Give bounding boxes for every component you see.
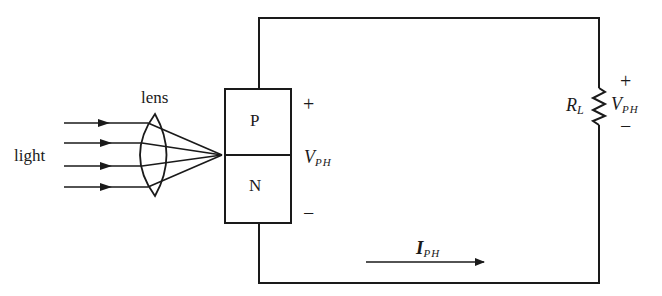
ray-arrowheads [98, 119, 112, 191]
resistor-label: RL [566, 96, 585, 116]
resistor-plus-sign: + [620, 71, 631, 91]
current-label: IPH [416, 238, 440, 259]
resistor-voltage-label: VPH [611, 95, 639, 115]
lens-shape [140, 114, 167, 196]
p-region-label: P [250, 112, 259, 129]
light-rays [64, 123, 222, 187]
top-wire [259, 18, 599, 89]
resistor-zigzag [593, 88, 605, 125]
diode-minus-sign: − [303, 203, 314, 223]
diode-voltage-label: VPH [304, 148, 332, 168]
lens-label: lens [141, 89, 168, 106]
n-region-label: N [249, 177, 261, 194]
photodiode-circuit-diagram: light lens P N + − VPH RL + − VPH IPH [0, 0, 662, 296]
resistor-minus-sign: − [620, 116, 631, 136]
diode-plus-sign: + [303, 94, 314, 114]
light-label: light [14, 147, 45, 164]
